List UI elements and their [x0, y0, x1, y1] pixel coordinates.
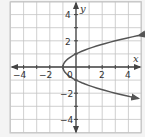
- x-tick-label: −4: [13, 70, 27, 80]
- y-tick-label: −2: [60, 89, 73, 99]
- origin-label: 0: [67, 70, 73, 80]
- y-axis-label: y: [79, 3, 86, 14]
- x-axis-label: x: [133, 53, 139, 64]
- y-tick-label: −4: [60, 115, 74, 125]
- x-tick-label: 2: [99, 70, 105, 80]
- y-tick-label: 2: [65, 37, 71, 47]
- x-tick-label: 4: [125, 70, 131, 80]
- y-tick-label: 4: [65, 10, 71, 20]
- graph: x y 0 −4 −2 2 4 4 2 −2 −4: [0, 0, 145, 137]
- x-tick-label: −2: [39, 70, 52, 80]
